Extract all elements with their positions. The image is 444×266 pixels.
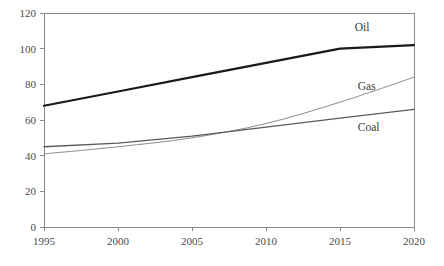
x-tick-label: 2000 bbox=[107, 235, 130, 247]
y-tick-label: 100 bbox=[20, 43, 37, 55]
line-chart: 020406080100120 199520002005201020152020… bbox=[0, 0, 444, 266]
x-tick-label: 1995 bbox=[33, 235, 56, 247]
series-label-gas: Gas bbox=[358, 80, 376, 92]
series-label-coal: Coal bbox=[358, 121, 380, 133]
y-tick-label: 60 bbox=[25, 114, 37, 126]
series-label-oil: Oil bbox=[355, 21, 370, 33]
chart-figure: 020406080100120 199520002005201020152020… bbox=[0, 0, 444, 266]
y-tick-label: 0 bbox=[31, 221, 37, 233]
x-tick-label: 2015 bbox=[329, 235, 352, 247]
x-tick-label: 2005 bbox=[181, 235, 204, 247]
y-tick-label: 120 bbox=[20, 7, 37, 19]
y-tick-label: 40 bbox=[25, 150, 37, 162]
y-tick-label: 20 bbox=[25, 185, 37, 197]
y-tick-label: 80 bbox=[25, 78, 37, 90]
x-tick-label: 2010 bbox=[255, 235, 278, 247]
x-tick-label: 2020 bbox=[403, 235, 426, 247]
